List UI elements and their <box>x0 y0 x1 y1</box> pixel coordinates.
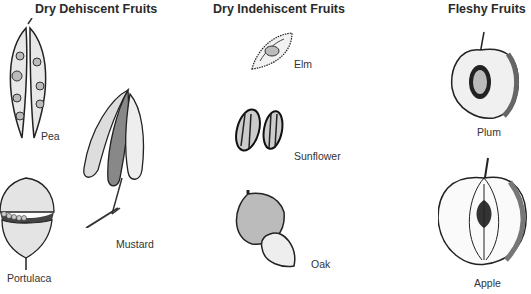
heading-fleshy: Fleshy Fruits <box>448 2 526 16</box>
heading-dry-indehiscent: Dry Indehiscent Fruits <box>213 2 345 16</box>
sunflower-achene-icon <box>233 108 291 154</box>
acorn-icon <box>234 188 302 270</box>
label-oak: Oak <box>311 258 330 270</box>
plum-cross-section-icon <box>450 30 520 120</box>
heading-dry-dehiscent: Dry Dehiscent Fruits <box>35 2 157 16</box>
elm-samara-icon <box>250 31 296 71</box>
label-pea: Pea <box>41 130 60 142</box>
label-plum: Plum <box>477 126 501 138</box>
label-sunflower: Sunflower <box>294 150 341 162</box>
label-elm: Elm <box>294 58 312 70</box>
label-mustard: Mustard <box>116 238 154 250</box>
apple-cross-section-icon <box>438 156 528 268</box>
pea-pod-icon <box>2 18 54 142</box>
mustard-silique-icon <box>82 88 152 228</box>
label-apple: Apple <box>474 277 501 289</box>
label-portulaca: Portulaca <box>7 272 51 284</box>
portulaca-capsule-icon <box>0 176 60 272</box>
